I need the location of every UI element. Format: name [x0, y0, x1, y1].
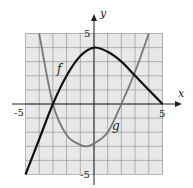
x-axis-arrow-icon: [175, 101, 182, 107]
x-max-label: 5: [159, 108, 165, 119]
graph: x y -5 5 5 -5 f g: [0, 0, 193, 188]
g-label: g: [112, 119, 120, 133]
y-min-label: -5: [80, 169, 90, 180]
x-axis-label: x: [178, 87, 185, 100]
x-min-label: -5: [14, 107, 24, 118]
y-max-label: 5: [84, 28, 90, 39]
y-axis-label: y: [99, 7, 107, 20]
y-axis-arrow-icon: [91, 14, 97, 21]
